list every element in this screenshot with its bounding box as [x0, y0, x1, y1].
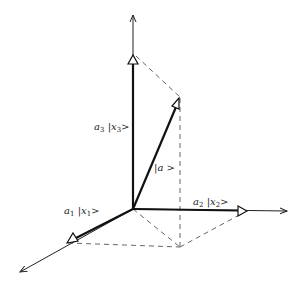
component-a2-vector	[133, 209, 238, 211]
state-vector-a	[133, 107, 176, 209]
projection-lines	[68, 56, 243, 247]
label-a3-x3: a3 |x3>	[94, 122, 130, 134]
arrowhead-a-icon	[172, 98, 179, 109]
arrowhead-a1-icon	[67, 233, 78, 243]
label-a: |a >	[154, 163, 175, 173]
coef-sub-1: 1	[70, 210, 74, 218]
ket-a: a	[157, 162, 163, 173]
label-a1-x1: a1 |x1>	[64, 206, 100, 218]
arrowhead-a2-icon	[238, 206, 247, 216]
diagram-svg	[0, 0, 299, 286]
ket-close: >	[167, 162, 175, 173]
ket-close: >	[121, 121, 129, 132]
coef-sub-3: 3	[100, 126, 104, 134]
label-a2-x2: a2 |x2>	[193, 197, 229, 209]
coef-sub-2: 2	[199, 201, 203, 209]
ket-close: >	[91, 205, 99, 216]
vector-diagram: a3 |x3> |a > a2 |x2> a1 |x1>	[0, 0, 299, 286]
ket-close: >	[220, 196, 228, 207]
